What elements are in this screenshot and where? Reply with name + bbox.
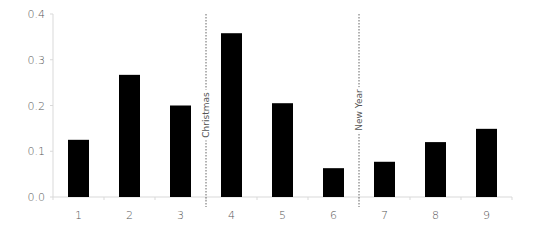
new-year-label: New Year [354, 89, 364, 131]
x-tick-label: 2 [126, 209, 133, 222]
x-tick-label: 1 [75, 209, 82, 222]
y-tick-label: 0.1 [28, 145, 46, 158]
y-tick-label: 0.3 [28, 54, 46, 67]
bar-9 [476, 129, 497, 197]
x-axis: 123456789 [53, 197, 512, 222]
x-tick-label: 9 [483, 209, 490, 222]
x-tick-label: 8 [432, 209, 439, 222]
y-tick-label: 0.4 [28, 8, 46, 21]
bar-4 [221, 33, 242, 197]
bars [68, 33, 497, 197]
x-tick-label: 6 [330, 209, 337, 222]
bar-3 [170, 106, 191, 198]
y-axis: 0.00.10.20.30.4 [28, 8, 54, 204]
christmas-label: Christmas [201, 92, 211, 138]
x-tick-label: 3 [177, 209, 184, 222]
x-tick-label: 4 [228, 209, 235, 222]
y-tick-label: 0.0 [28, 191, 46, 204]
bar-chart: 0.00.10.20.30.4 123456789 ChristmasNew Y… [0, 0, 540, 232]
bar-8 [425, 142, 446, 197]
bar-5 [272, 103, 293, 197]
bar-2 [119, 75, 140, 197]
bar-1 [68, 140, 89, 197]
x-tick-label: 5 [279, 209, 286, 222]
bar-6 [323, 168, 344, 197]
bar-7 [374, 162, 395, 197]
y-tick-label: 0.2 [28, 100, 46, 113]
x-tick-label: 7 [381, 209, 388, 222]
